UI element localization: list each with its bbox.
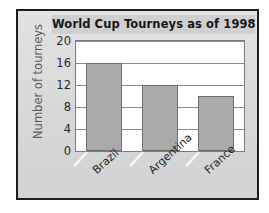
bar-brazil — [86, 63, 123, 151]
y-tick-label: 0 — [49, 144, 71, 158]
y-tick-label: 8 — [49, 100, 71, 114]
y-tick-label: 20 — [49, 34, 71, 48]
plot-area: 048121620 — [75, 40, 245, 152]
y-tick-label: 12 — [49, 78, 71, 92]
y-tick-label: 16 — [49, 56, 71, 70]
chart-title: World Cup Tourneys as of 1998 — [52, 15, 255, 34]
y-tick-label: 4 — [49, 122, 71, 136]
gridline — [76, 41, 244, 42]
chart-card: World Cup Tourneys as of 1998 Number of … — [16, 9, 259, 200]
chart-figure: World Cup Tourneys as of 1998 Number of … — [0, 0, 269, 213]
y-axis-label: Number of tourneys — [30, 27, 46, 139]
